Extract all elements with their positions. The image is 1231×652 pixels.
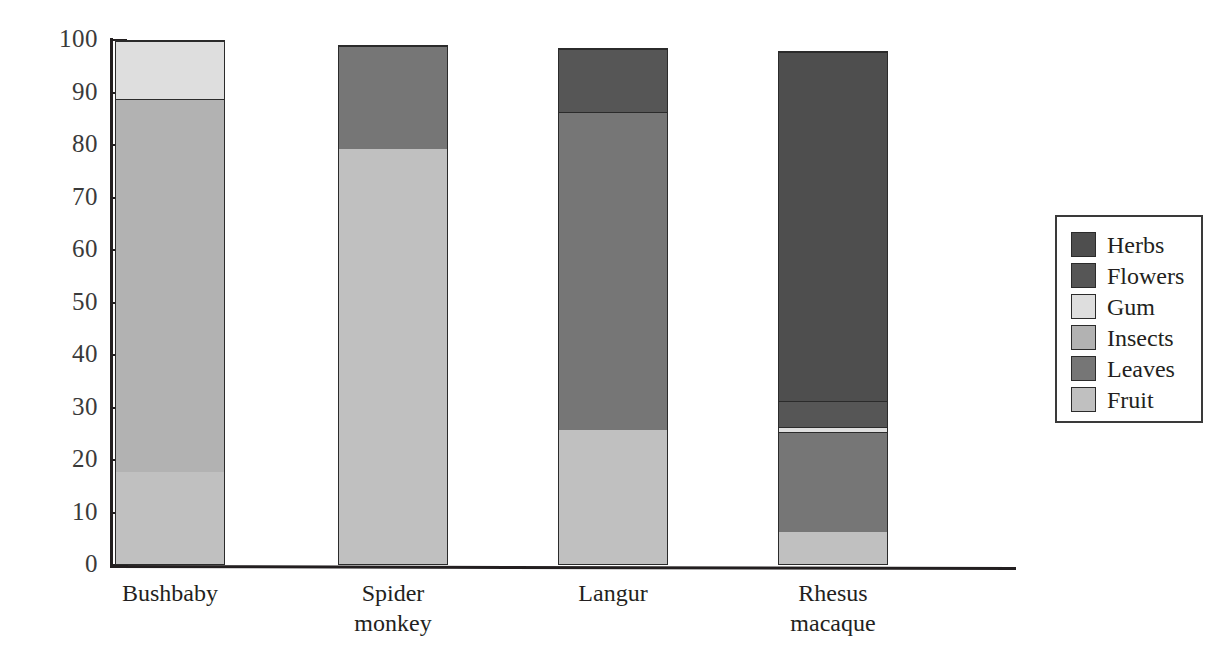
y-axis-tick-label: 90 <box>0 79 98 104</box>
y-axis-tick-label: 30 <box>0 394 98 419</box>
bar-segment-leaves <box>559 112 667 430</box>
bar-segment-flowers <box>779 401 887 427</box>
x-axis-label-line: monkey <box>283 608 503 638</box>
x-axis-label-line: macaque <box>723 608 943 638</box>
legend-item-gum: Gum <box>1071 291 1201 322</box>
bar-segment-flowers <box>559 49 667 112</box>
chart-legend: HerbsFlowersGumInsectsLeavesFruit <box>1055 215 1203 423</box>
y-axis-tick-label: 60 <box>0 236 98 261</box>
y-axis-tick-label: 100 <box>0 26 98 51</box>
legend-item-fruit: Fruit <box>1071 384 1201 415</box>
x-axis-label-line: Bushbaby <box>60 578 280 608</box>
legend-label-herbs: Herbs <box>1107 233 1164 257</box>
stacked-bar-chart: 0102030405060708090100 BushbabySpidermon… <box>0 0 1231 652</box>
legend-swatch-herbs <box>1071 232 1096 257</box>
y-axis-tick-label: 0 <box>0 551 98 576</box>
legend-swatch-gum <box>1071 294 1096 319</box>
bar-segment-gum <box>779 427 887 432</box>
x-axis-label-line: Langur <box>503 578 723 608</box>
legend-label-insects: Insects <box>1107 326 1174 350</box>
y-axis-tick-label: 20 <box>0 446 98 471</box>
x-axis-line <box>110 565 1016 570</box>
bar-rhesus-macaque <box>778 51 888 566</box>
bar-segment-fruit <box>339 149 447 565</box>
x-axis-label-rhesus-macaque: Rhesusmacaque <box>723 578 943 638</box>
bar-segment-leaves <box>779 432 887 532</box>
x-axis-label-line: Spider <box>283 578 503 608</box>
legend-item-insects: Insects <box>1071 322 1201 353</box>
bar-segment-leaves <box>339 46 447 148</box>
y-axis-tick-label: 70 <box>0 184 98 209</box>
x-axis-label-spider-monkey: Spidermonkey <box>283 578 503 638</box>
x-axis-label-bushbaby: Bushbaby <box>60 578 280 608</box>
legend-item-flowers: Flowers <box>1071 260 1201 291</box>
y-axis-tick-label: 80 <box>0 131 98 156</box>
y-axis-tick-label: 50 <box>0 289 98 314</box>
bar-segment-fruit <box>559 430 667 566</box>
bar-segment-herbs <box>779 52 887 401</box>
legend-swatch-flowers <box>1071 263 1096 288</box>
bar-segment-fruit <box>779 532 887 565</box>
legend-swatch-leaves <box>1071 356 1096 381</box>
legend-swatch-fruit <box>1071 387 1096 412</box>
legend-item-herbs: Herbs <box>1071 229 1201 260</box>
legend-label-leaves: Leaves <box>1107 357 1175 381</box>
bar-bushbaby <box>115 40 225 565</box>
legend-swatch-insects <box>1071 325 1096 350</box>
bar-segment-fruit <box>116 472 224 566</box>
bar-langur <box>558 48 668 565</box>
bar-segment-gum <box>116 41 224 99</box>
legend-item-leaves: Leaves <box>1071 353 1201 384</box>
y-axis-tick-label: 10 <box>0 499 98 524</box>
legend-label-flowers: Flowers <box>1107 264 1184 288</box>
x-axis-label-langur: Langur <box>503 578 723 608</box>
y-axis-tick-label: 40 <box>0 341 98 366</box>
legend-label-fruit: Fruit <box>1107 388 1154 412</box>
x-axis-label-line: Rhesus <box>723 578 943 608</box>
bar-segment-insects <box>116 99 224 472</box>
legend-label-gum: Gum <box>1107 295 1155 319</box>
plot-area <box>112 40 902 565</box>
bar-spider-monkey <box>338 45 448 565</box>
